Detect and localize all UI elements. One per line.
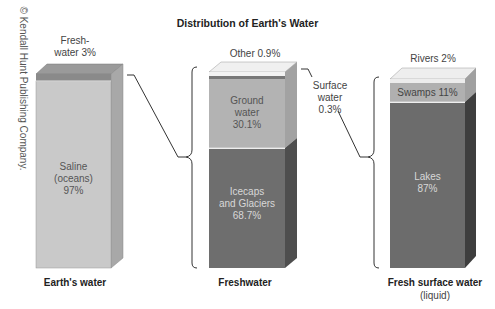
bar2-side-upper: [285, 62, 297, 148]
brace-freshwater: [186, 67, 197, 268]
caption-fresh-surface-water: Fresh surface water: [370, 277, 495, 289]
connector-line-top: [127, 75, 178, 157]
caption-freshwater: Freshwater: [190, 277, 300, 289]
bar1-top-face: [36, 64, 123, 74]
segment-surface-water: [209, 76, 285, 79]
label-freshwater-3: Fresh-water 3%: [40, 35, 110, 59]
label-swamps: Swamps 11%: [390, 87, 465, 99]
label-other: Other 0.9%: [217, 48, 293, 60]
bar3-top-face: [390, 68, 476, 79]
caption-liquid: (liquid): [370, 290, 495, 302]
label-ground-water: Groundwater30.1%: [209, 95, 285, 131]
connector-line-surface: [301, 69, 312, 77]
label-rivers: Rivers 2%: [395, 53, 471, 65]
bar1-side-face: [111, 64, 123, 268]
bar2-side-lower: [285, 138, 297, 268]
label-saline: Saline(oceans)97%: [36, 161, 111, 197]
caption-earths-water: Earth's water: [20, 277, 130, 289]
segment-other: [209, 72, 285, 76]
bar2-top-face: [209, 62, 297, 72]
label-lakes: Lakes87%: [390, 171, 465, 195]
bar3-side-lower: [465, 92, 476, 268]
segment-rivers: [390, 79, 465, 83]
connector-line-surface-lower: [338, 111, 360, 157]
segment-freshwater-3: [36, 74, 111, 81]
brace-surface-water: [368, 77, 379, 268]
label-icecaps-glaciers: Icecapsand Glaciers68.7%: [209, 186, 285, 222]
label-surface-water: Surfacewater0.3%: [305, 80, 355, 116]
bar-freshwater: [209, 62, 297, 268]
